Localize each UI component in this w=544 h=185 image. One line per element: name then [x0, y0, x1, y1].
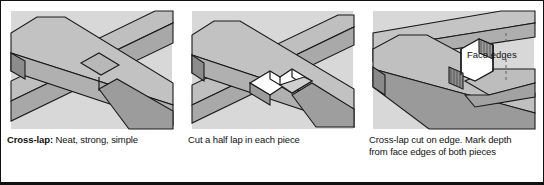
panel-caption: Cross-lap: Neat, strong, simple	[7, 134, 178, 146]
cross-lap-finished-drawing	[7, 9, 176, 131]
face-edges-callout-label: Face edges	[467, 49, 517, 60]
panel-cross-lap-on-edge: Face edges Cross-lap cut on edge. Mark d…	[363, 1, 544, 185]
caption-line-1: Cross-lap cut on edge. Mark depth	[369, 134, 540, 146]
panel-cross-lap-finished: Cross-lap: Neat, strong, simple	[1, 1, 182, 185]
panel-half-lap-cut: Cut a half lap in each piece	[182, 1, 363, 185]
illustration-half-lap-cut	[188, 9, 357, 131]
illustration-cross-lap-finished	[7, 9, 176, 131]
caption-rest: Cut a half lap in each piece	[188, 134, 300, 145]
half-lap-cut-drawing	[188, 9, 357, 131]
caption-rest: Neat, strong, simple	[53, 134, 138, 145]
woodworking-figure: Cross-lap: Neat, strong, simple	[0, 0, 544, 185]
illustration-cross-lap-on-edge: Face edges	[369, 9, 538, 131]
panel-caption: Cut a half lap in each piece	[188, 134, 359, 146]
caption-line-2: from face edges of both pieces	[369, 146, 540, 158]
panel-caption: Cross-lap cut on edge. Mark depth from f…	[369, 134, 540, 158]
cross-lap-on-edge-drawing	[369, 9, 538, 131]
caption-lead: Cross-lap:	[7, 134, 53, 145]
panel-row: Cross-lap: Neat, strong, simple	[1, 1, 544, 185]
